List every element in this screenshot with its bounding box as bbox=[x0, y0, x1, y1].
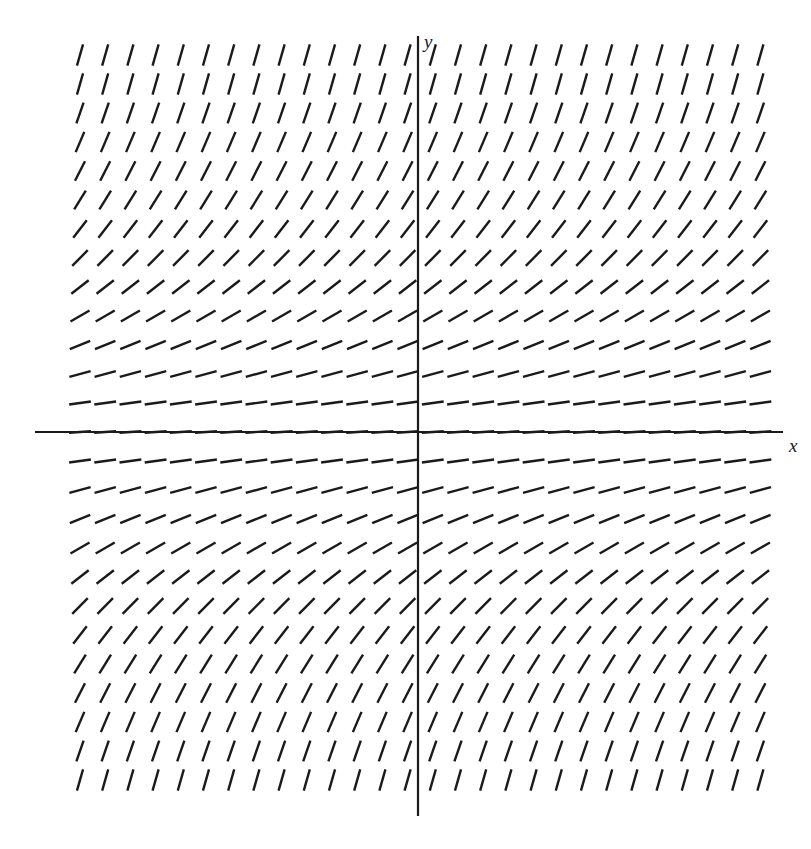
slope-dash bbox=[631, 44, 637, 65]
slope-dash bbox=[203, 73, 209, 94]
slope-dash bbox=[724, 459, 746, 462]
slope-dash bbox=[271, 515, 291, 523]
slope-dash bbox=[120, 487, 141, 493]
slope-dash bbox=[378, 712, 387, 732]
slope-dash bbox=[474, 311, 493, 322]
slope-dash bbox=[203, 769, 209, 790]
slope-dash bbox=[523, 341, 543, 349]
slope-dash bbox=[423, 311, 442, 322]
slope-dash bbox=[475, 598, 491, 614]
slope-dash bbox=[246, 401, 268, 404]
slope-dash bbox=[349, 598, 365, 614]
slope-dash bbox=[74, 655, 86, 674]
slope-dash bbox=[296, 459, 318, 462]
slope-dash bbox=[576, 598, 592, 614]
slope-dash bbox=[573, 371, 594, 377]
slope-dash bbox=[271, 487, 292, 493]
slope-dash bbox=[225, 191, 237, 210]
slope-dash bbox=[377, 191, 389, 210]
slope-dash bbox=[354, 103, 361, 124]
slope-dash bbox=[452, 191, 464, 210]
slope-dash bbox=[702, 250, 718, 266]
slope-dash bbox=[73, 220, 87, 237]
slope-dash bbox=[429, 132, 438, 152]
slope-dash bbox=[378, 132, 387, 152]
slope-dash bbox=[704, 191, 716, 210]
slope-dash bbox=[71, 570, 88, 584]
slope-dash bbox=[249, 250, 265, 266]
slope-dash bbox=[277, 683, 287, 703]
slope-dash bbox=[652, 598, 668, 614]
slope-dash bbox=[322, 543, 341, 554]
slope-dash bbox=[424, 280, 441, 294]
slope-dash bbox=[599, 371, 620, 377]
slope-dash bbox=[326, 655, 338, 674]
slope-dash bbox=[248, 570, 265, 584]
slope-dash bbox=[202, 712, 211, 732]
slope-dash bbox=[476, 220, 490, 237]
slope-dash bbox=[502, 626, 516, 643]
slope-dash bbox=[649, 459, 671, 462]
slope-dash bbox=[476, 626, 490, 643]
slope-dash bbox=[196, 311, 215, 322]
slope-dash bbox=[631, 741, 638, 762]
slope-dash bbox=[200, 191, 212, 210]
slope-dash bbox=[651, 570, 668, 584]
slope-dash bbox=[650, 311, 669, 322]
slope-dash bbox=[221, 487, 242, 493]
slope-dash bbox=[321, 487, 342, 493]
slope-dash bbox=[454, 132, 463, 152]
slope-dash bbox=[501, 598, 517, 614]
slope-dash bbox=[430, 769, 436, 790]
slope-dash bbox=[579, 683, 589, 703]
slope-dash bbox=[151, 132, 160, 152]
slope-dash bbox=[145, 371, 166, 377]
slope-dash bbox=[550, 280, 567, 294]
slope-dash bbox=[732, 769, 738, 790]
slope-dash bbox=[649, 515, 669, 523]
slope-dash bbox=[277, 132, 286, 152]
slope-dash bbox=[95, 515, 115, 523]
slope-dash bbox=[731, 132, 740, 152]
slope-dash bbox=[300, 220, 314, 237]
slope-dash bbox=[121, 543, 140, 554]
slope-dash bbox=[403, 712, 412, 732]
slope-dash bbox=[751, 311, 770, 322]
slope-dash bbox=[429, 741, 436, 762]
slope-dash bbox=[573, 401, 595, 404]
slope-dash bbox=[97, 280, 114, 294]
slope-dash bbox=[172, 570, 189, 584]
slope-dash bbox=[96, 543, 115, 554]
slope-dash bbox=[271, 371, 292, 377]
slope-dash bbox=[202, 103, 209, 124]
slope-dash bbox=[699, 459, 721, 462]
slope-dash bbox=[372, 459, 394, 462]
slope-dash bbox=[220, 459, 242, 462]
slope-dash bbox=[102, 769, 108, 790]
slope-dash bbox=[99, 655, 111, 674]
slope-dash bbox=[170, 487, 191, 493]
slope-dash bbox=[447, 401, 469, 404]
slope-dash bbox=[322, 341, 342, 349]
slope-dash bbox=[397, 371, 418, 377]
slope-dash bbox=[298, 280, 315, 294]
slope-dash bbox=[279, 73, 285, 94]
slope-dash bbox=[728, 220, 742, 237]
slope-dash bbox=[278, 741, 285, 762]
slope-dash bbox=[198, 598, 214, 614]
slope-dash bbox=[755, 655, 767, 674]
slope-dash bbox=[580, 132, 589, 152]
slope-dash bbox=[71, 280, 88, 294]
slope-dash bbox=[675, 543, 694, 554]
slope-dash bbox=[750, 341, 770, 349]
slope-dash bbox=[630, 712, 639, 732]
slope-dash bbox=[102, 103, 109, 124]
slope-dash bbox=[627, 250, 643, 266]
slope-dash bbox=[726, 543, 745, 554]
slope-dash bbox=[598, 459, 620, 462]
slope-dash bbox=[750, 515, 770, 523]
slope-dash bbox=[628, 220, 642, 237]
slope-dash bbox=[626, 570, 643, 584]
slope-dash bbox=[347, 515, 367, 523]
slope-dash bbox=[752, 280, 769, 294]
